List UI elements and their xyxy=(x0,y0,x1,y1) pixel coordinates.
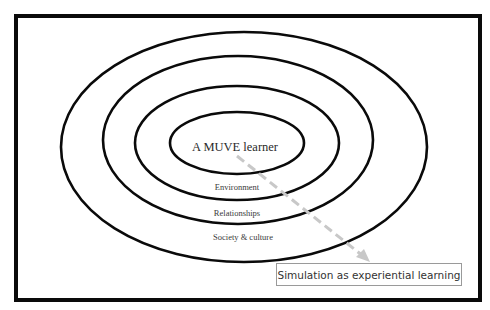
ring-label-relationships: Relationships xyxy=(214,208,260,218)
arrow-head xyxy=(356,249,370,262)
callout-box: Simulation as experiential learning xyxy=(276,263,462,286)
ring-label-society-culture: Society & culture xyxy=(213,232,273,242)
center-label: A MUVE learner xyxy=(192,140,279,154)
ring-label-environment: Environment xyxy=(215,182,260,192)
callout-label: Simulation as experiential learning xyxy=(277,269,460,281)
